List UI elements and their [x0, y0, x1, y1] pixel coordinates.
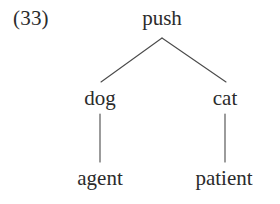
example-number-label: (33) — [13, 6, 49, 30]
tree-node-patient: patient — [195, 166, 252, 190]
tree-node-agent: agent — [77, 166, 122, 190]
tree-node-dog: dog — [84, 86, 116, 110]
tree-node-push: push — [142, 6, 182, 30]
edge-push-to-dog — [101, 38, 162, 82]
syntax-tree-figure: (33) push dog cat agent patient — [0, 0, 280, 204]
edge-push-to-cat — [162, 38, 226, 82]
tree-node-cat: cat — [213, 86, 237, 110]
